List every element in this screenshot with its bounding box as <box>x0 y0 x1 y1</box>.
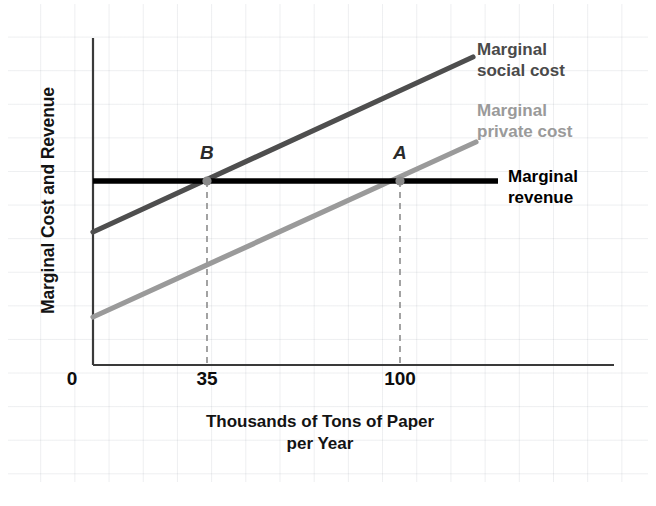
x-tick-label-0: 0 <box>54 368 90 390</box>
y-axis-title: Marginal Cost and Revenue <box>38 71 59 331</box>
series-label-marginal-social-cost: Marginal social cost <box>477 40 565 81</box>
x-axis-title: Thousands of Tons of Paper per Year <box>150 411 490 455</box>
x-tick-label-35: 35 <box>183 368 231 390</box>
point-label-a: A <box>393 142 407 164</box>
data-point-b <box>202 176 211 185</box>
series-label-marginal-private-cost: Marginal private cost <box>477 101 572 142</box>
series-label-marginal-revenue: Marginal revenue <box>508 167 578 208</box>
x-tick-label-100: 100 <box>371 368 429 390</box>
point-label-b: B <box>200 142 214 164</box>
series-line-marginal-private-cost <box>93 142 476 317</box>
data-point-a <box>395 176 404 185</box>
series-line-marginal-social-cost <box>93 57 473 232</box>
chart-figure: Marginal Cost and Revenue Thousands of T… <box>0 0 656 506</box>
